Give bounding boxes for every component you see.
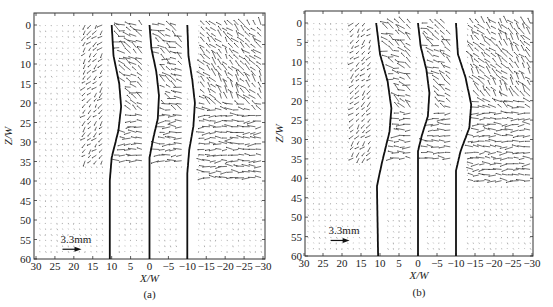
x-tick-label: 20 [68, 260, 80, 272]
x-tick-label: 25 [318, 257, 330, 269]
vector-field [39, 17, 262, 253]
x-tick-label: 5 [396, 257, 402, 269]
scale-label: 3.3mm [60, 233, 91, 245]
y-tick-label: 5 [26, 39, 32, 51]
panel-b: 302520151050−5−10−15−20−25−3005101520253… [273, 11, 541, 299]
y-tick-label: 40 [291, 172, 303, 184]
y-tick-label: 10 [20, 58, 32, 70]
y-axis-label: Z/W [273, 123, 285, 142]
y-tick-label: 10 [291, 56, 303, 68]
boundary-curve-center [418, 23, 429, 256]
y-tick-label: 20 [291, 95, 303, 107]
vector-field [308, 16, 532, 250]
boundary-curve-right [456, 23, 471, 256]
y-tick-label: 0 [26, 19, 32, 31]
quiver-figure: 302520151050−5−10−15−20−25−3005101520253… [0, 0, 553, 307]
x-axis-label: X/W [409, 269, 430, 281]
x-tick-label: 30 [31, 260, 43, 272]
y-tick-label: 5 [297, 36, 303, 48]
scale-label: 3.3mm [329, 224, 360, 236]
y-tick-label: 0 [297, 17, 303, 29]
y-tick-label: 25 [291, 114, 303, 126]
x-tick-label: −20 [217, 260, 235, 272]
panel-a: 302520151050−5−10−15−20−25−3005101520253… [2, 13, 272, 301]
y-tick-label: 35 [20, 156, 32, 168]
x-tick-label: −15 [198, 260, 216, 272]
x-tick-label: −25 [235, 260, 253, 272]
x-tick-label: 5 [128, 260, 134, 272]
x-tick-label: 0 [415, 257, 421, 269]
x-tick-label: −30 [523, 257, 541, 269]
y-tick-label: 25 [20, 117, 32, 129]
panel-caption: (a) [143, 288, 156, 301]
boundary-curve-right [187, 25, 195, 259]
x-tick-label: −5 [163, 260, 175, 272]
y-tick-label: 50 [20, 214, 32, 226]
x-tick-label: −10 [179, 260, 197, 272]
y-tick-label: 35 [291, 153, 303, 165]
x-tick-label: −15 [466, 257, 484, 269]
y-tick-label: 50 [291, 211, 303, 223]
x-tick-label: −25 [504, 257, 522, 269]
y-tick-label: 30 [20, 136, 32, 148]
y-tick-label: 15 [291, 75, 303, 87]
y-tick-label: 60 [20, 253, 32, 265]
y-tick-label: 40 [20, 175, 32, 187]
x-tick-label: 15 [87, 260, 99, 272]
y-tick-label: 45 [291, 192, 303, 204]
x-tick-label: 10 [375, 257, 387, 269]
x-tick-label: −30 [254, 260, 272, 272]
y-tick-label: 45 [20, 195, 32, 207]
y-tick-label: 60 [291, 250, 303, 262]
x-tick-label: −20 [485, 257, 503, 269]
y-tick-label: 55 [291, 231, 303, 243]
y-tick-label: 30 [291, 134, 303, 146]
y-tick-label: 55 [20, 234, 32, 246]
x-tick-label: −5 [431, 257, 443, 269]
x-tick-label: 0 [147, 260, 153, 272]
x-axis-label: X/W [139, 272, 160, 284]
y-tick-label: 20 [20, 97, 32, 109]
x-tick-label: 10 [106, 260, 118, 272]
y-tick-label: 15 [20, 78, 32, 90]
x-tick-label: 20 [337, 257, 349, 269]
x-tick-label: 25 [49, 260, 61, 272]
x-tick-label: 15 [356, 257, 368, 269]
panel-caption: (b) [413, 286, 426, 299]
x-tick-label: −10 [447, 257, 465, 269]
y-axis-label: Z/W [2, 126, 14, 145]
boundary-curve-center [150, 25, 160, 259]
